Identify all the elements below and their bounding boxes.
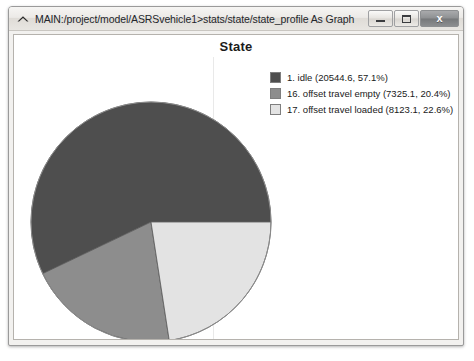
maximize-icon (402, 15, 411, 23)
pie-slice (151, 222, 271, 340)
close-icon: x (436, 13, 442, 24)
legend-item: 1. idle (20544.6, 57.1%) (270, 71, 459, 84)
pie-svg (26, 97, 276, 340)
plot-client-area: State 1. idle (20544.6, 57.1%)16. offset… (13, 34, 459, 340)
window-title-bar[interactable]: MAIN:/project/model/ASRSvehicle1>stats/s… (9, 7, 463, 31)
minimize-icon (376, 20, 385, 22)
legend-label: 16. offset travel empty (7325.1, 20.4%) (287, 88, 451, 99)
legend-swatch (270, 72, 281, 83)
legend-item: 17. offset travel loaded (8123.1, 22.6%) (270, 103, 459, 116)
legend-item: 16. offset travel empty (7325.1, 20.4%) (270, 87, 459, 100)
maximize-button[interactable] (394, 10, 419, 27)
window-controls: x (368, 10, 459, 27)
pie-graphic (26, 97, 276, 340)
desktop-backdrop: MAIN:/project/model/ASRSvehicle1>stats/s… (0, 0, 474, 361)
chart-legend: 1. idle (20544.6, 57.1%)16. offset trave… (270, 71, 459, 119)
graph-window: MAIN:/project/model/ASRSvehicle1>stats/s… (8, 6, 464, 346)
legend-swatch (270, 88, 281, 99)
chevron-up-icon (16, 12, 30, 26)
minimize-button[interactable] (368, 10, 393, 27)
close-button[interactable]: x (420, 10, 459, 27)
pie-chart-plot: State 1. idle (20544.6, 57.1%)16. offset… (14, 35, 458, 339)
chart-title: State (14, 39, 458, 54)
window-title-text: MAIN:/project/model/ASRSvehicle1>stats/s… (35, 12, 368, 26)
legend-swatch (270, 104, 281, 115)
legend-label: 1. idle (20544.6, 57.1%) (287, 72, 388, 83)
legend-label: 17. offset travel loaded (8123.1, 22.6%) (287, 104, 453, 115)
